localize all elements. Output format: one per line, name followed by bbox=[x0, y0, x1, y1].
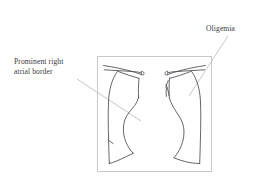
leader-lines bbox=[77, 36, 228, 121]
annotation-right-atrial-line-2: atrial border bbox=[14, 67, 63, 77]
annotation-right-atrial-line-1: Prominent right bbox=[14, 57, 63, 67]
left-hemidiaphragm bbox=[109, 153, 133, 163]
annotation-label-right-atrial-border: Prominent right atrial border bbox=[14, 57, 63, 76]
leader-line-oligemia bbox=[189, 36, 228, 96]
radiograph-linework bbox=[104, 66, 206, 164]
left-clavicle-medial-end bbox=[141, 71, 144, 75]
left-costophrenic-tick bbox=[109, 140, 114, 144]
right-lung-lateral-border bbox=[192, 72, 201, 164]
annotation-label-oligemia: Oligemia bbox=[206, 24, 235, 34]
right-clavicle-medial-end bbox=[165, 71, 168, 75]
annotation-oligemia-line-1: Oligemia bbox=[206, 24, 235, 34]
figure-page: Prominent right atrial border Oligemia bbox=[0, 0, 274, 183]
upper-mediastinal-border-left bbox=[138, 79, 139, 98]
left-lung-lateral-border bbox=[108, 72, 117, 164]
right-atrial-border bbox=[123, 98, 138, 154]
right-hemidiaphragm bbox=[174, 158, 200, 164]
radiograph-frame bbox=[98, 57, 212, 172]
cardiac-silhouette-right bbox=[169, 98, 184, 158]
